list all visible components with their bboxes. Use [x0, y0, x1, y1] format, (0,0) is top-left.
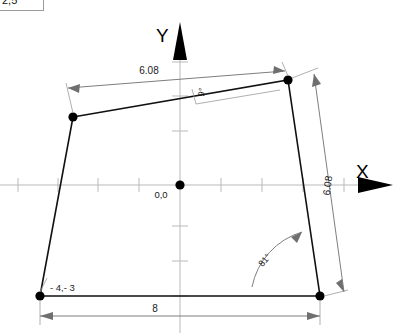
- top-dimension: 6.08: [66, 62, 288, 113]
- vertex-bottom-right: [315, 291, 324, 300]
- bottom-left-coordinate-label: - 4,- 3: [50, 282, 75, 293]
- geometry-figure: 6.08 9° 6.08 81°: [0, 0, 393, 333]
- top-dim-arrow-left-icon: [68, 84, 80, 93]
- top-dimension-label: 6.08: [139, 65, 159, 76]
- vertex-top-right: [283, 75, 292, 84]
- top-dim-arrow-right-icon: [273, 66, 285, 74]
- corner-readout-box[interactable]: 2,5: [0, 0, 44, 11]
- right-dim-arrow-top-icon: [312, 74, 321, 87]
- corner-readout-value: 2,5: [2, 0, 17, 6]
- origin-dot: [175, 180, 184, 189]
- diagram-canvas: 6.08 9° 6.08 81°: [0, 0, 393, 333]
- vertex-top-left: [68, 112, 77, 121]
- x-axis-label: X: [356, 161, 369, 182]
- bottom-right-angle-label: 81°: [256, 251, 273, 268]
- origin-label: 0,0: [154, 189, 167, 200]
- right-dimension-label: 6.08: [321, 175, 335, 196]
- bottom-dim-arrow-right-icon: [307, 312, 320, 320]
- right-dimension: 6.08: [292, 68, 348, 296]
- bottom-dimension-label: 8: [152, 303, 158, 314]
- bottom-right-angle-annotation: 81°: [252, 232, 302, 287]
- bottom-left-coordinate-callout: - 4,- 3: [40, 278, 75, 293]
- vertex-bottom-left: [35, 291, 44, 300]
- y-axis-label: Y: [156, 25, 169, 46]
- y-axis-arrow-icon: [173, 22, 187, 60]
- top-angle-label: 9°: [196, 87, 207, 98]
- bottom-dim-arrow-left-icon: [40, 312, 53, 320]
